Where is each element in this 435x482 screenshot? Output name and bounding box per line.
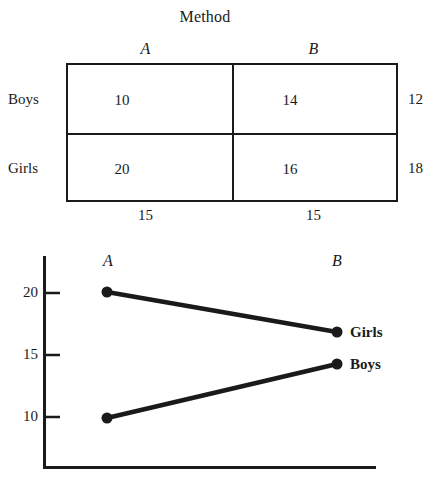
table-row-total-boys: 12 xyxy=(408,91,435,108)
table-row-header-boys: Boys xyxy=(8,91,64,108)
table-cell-boys-a: 10 xyxy=(82,92,162,109)
plot-line-boys xyxy=(107,364,337,418)
table-horizontal-divider xyxy=(68,133,396,135)
plot-line-girls xyxy=(107,292,337,332)
plot-point-girls-a xyxy=(102,287,113,298)
table-column-total-b: 15 xyxy=(286,207,341,224)
table-cell-boys-b: 14 xyxy=(250,92,330,109)
plot-ytick-label-20: 20 xyxy=(10,284,38,301)
interaction-plot: A B 20 15 10 Girls Boys xyxy=(0,240,435,482)
table-row-header-girls: Girls xyxy=(8,160,64,177)
plot-ytick-label-15: 15 xyxy=(10,346,38,363)
plot-series-label-boys: Boys xyxy=(350,356,381,373)
table-cell-girls-b: 16 xyxy=(250,161,330,178)
plot-column-label-a: A xyxy=(88,252,128,270)
plot-column-label-b: B xyxy=(317,252,357,270)
table-column-header-a: A xyxy=(118,40,173,58)
table-row-total-girls: 18 xyxy=(408,160,435,177)
plot-point-boys-a xyxy=(102,413,113,424)
table-cell-girls-a: 20 xyxy=(82,161,162,178)
contingency-table xyxy=(66,63,398,202)
table-title: Method xyxy=(0,8,410,26)
plot-series-label-girls: Girls xyxy=(350,324,383,341)
plot-point-girls-b xyxy=(332,327,343,338)
plot-ytick-label-10: 10 xyxy=(10,408,38,425)
plot-point-boys-b xyxy=(332,359,343,370)
table-column-total-a: 15 xyxy=(118,207,173,224)
table-column-header-b: B xyxy=(286,40,341,58)
